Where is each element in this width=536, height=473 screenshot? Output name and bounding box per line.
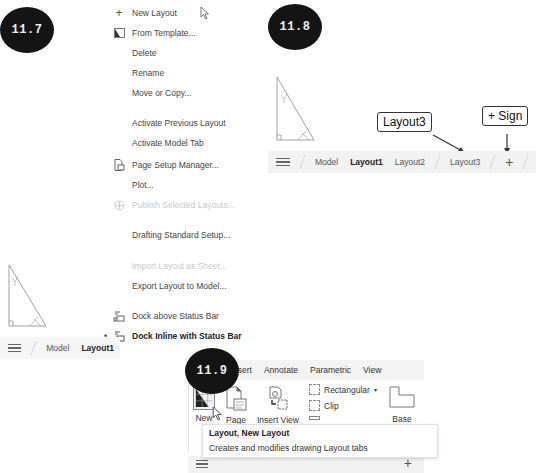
template-icon bbox=[112, 27, 126, 39]
page-setup-icon bbox=[112, 159, 126, 171]
tab-layout1[interactable]: Layout1 bbox=[344, 157, 389, 167]
rectangular-icon bbox=[309, 384, 320, 395]
ribbon-tab-annotate[interactable]: Annotate bbox=[258, 365, 304, 375]
menu-item-activate-model-tab[interactable]: Activate Model Tab bbox=[112, 135, 204, 151]
page-setup-button[interactable]: Page bbox=[225, 386, 247, 425]
menu-item-new-layout[interactable]: + New Layout bbox=[112, 5, 177, 21]
clip-button[interactable]: Clip bbox=[309, 400, 339, 411]
insert-view-button[interactable]: Insert View bbox=[257, 386, 299, 425]
callout-plus-sign: + Sign bbox=[482, 106, 528, 126]
menu-item-dock-above-status-bar[interactable]: Dock above Status Bar bbox=[112, 308, 219, 324]
insert-view-icon bbox=[266, 386, 290, 412]
menu-hamburger-icon[interactable] bbox=[196, 460, 208, 468]
clip-icon bbox=[309, 400, 320, 411]
tab-model[interactable]: Model bbox=[309, 157, 344, 167]
rectangular-viewport-button[interactable]: Rectangular ▾ bbox=[309, 384, 377, 395]
new-layout-plus-button[interactable]: + bbox=[499, 155, 519, 169]
lock-button[interactable] bbox=[309, 416, 324, 420]
tab-model[interactable]: Model bbox=[40, 343, 75, 353]
menu-item-plot[interactable]: Plot... bbox=[112, 177, 154, 193]
mouse-cursor-icon bbox=[200, 6, 210, 24]
menu-item-move-or-copy[interactable]: Move or Copy... bbox=[112, 85, 191, 101]
menu-item-import-layout-as-sheet: Import Layout as Sheet... bbox=[112, 258, 227, 274]
lock-viewport-icon bbox=[309, 416, 320, 420]
publish-icon bbox=[112, 199, 126, 211]
status-bar-11-9: + bbox=[188, 456, 424, 473]
tab-layout2[interactable]: Layout2 bbox=[389, 157, 431, 167]
mouse-cursor-icon bbox=[212, 406, 223, 425]
new-layout-tooltip: Layout, New Layout Creates and modifies … bbox=[202, 424, 438, 458]
menu-item-delete[interactable]: Delete bbox=[112, 45, 157, 61]
page-setup-icon bbox=[225, 386, 247, 412]
menu-item-export-layout-to-model[interactable]: Export Layout to Model... bbox=[112, 278, 227, 294]
triangle-drawing-11-8 bbox=[276, 76, 316, 142]
dock-above-icon bbox=[112, 310, 126, 322]
tooltip-title: Layout, New Layout bbox=[209, 428, 431, 438]
chevron-down-icon: ▾ bbox=[374, 386, 377, 393]
menu-item-publish-selected-layouts: Publish Selected Layouts... bbox=[112, 197, 235, 213]
ribbon-tab-view[interactable]: View bbox=[357, 365, 387, 375]
ribbon-tab-parametric[interactable]: Parametric bbox=[304, 365, 357, 375]
menu-item-drafting-standard-setup[interactable]: Drafting Standard Setup... bbox=[112, 227, 230, 243]
triangle-drawing-11-7 bbox=[8, 264, 48, 328]
menu-item-rename[interactable]: Rename bbox=[112, 65, 164, 81]
menu-hamburger-icon[interactable] bbox=[276, 158, 290, 166]
status-bar-11-7: Model Layout1 bbox=[0, 337, 120, 359]
figure-badge-11-8: 11.8 bbox=[268, 4, 322, 50]
tab-layout3[interactable]: Layout3 bbox=[444, 157, 486, 167]
menu-item-dock-inline-with-status-bar[interactable]: • Dock Inline with Status Bar bbox=[112, 328, 242, 344]
menu-item-page-setup-manager[interactable]: Page Setup Manager... bbox=[112, 157, 219, 173]
tooltip-description: Creates and modifies drawing Layout tabs bbox=[209, 443, 431, 453]
figure-badge-11-7: 11.7 bbox=[0, 7, 54, 53]
tab-layout1[interactable]: Layout1 bbox=[75, 343, 120, 353]
menu-item-from-template[interactable]: From Template... bbox=[112, 25, 196, 41]
figure-badge-11-9: 11.9 bbox=[185, 348, 239, 394]
base-view-icon bbox=[389, 386, 415, 408]
plus-icon: + bbox=[112, 7, 126, 19]
menu-item-activate-previous-layout[interactable]: Activate Previous Layout bbox=[112, 115, 226, 131]
callout-layout3: Layout3 bbox=[377, 112, 432, 132]
menu-hamburger-icon[interactable] bbox=[8, 344, 21, 352]
status-bar-11-8: Model Layout1 Layout2 Layout3 + bbox=[268, 151, 536, 173]
